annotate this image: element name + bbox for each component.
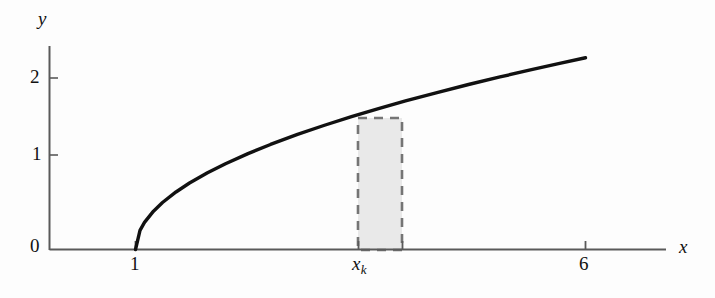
x-tick-label-6: 6 [579,253,589,275]
x-tick-label-xk-subscript: k [360,262,366,277]
y-tick-label-2: 2 [30,66,40,88]
x-tick-label-1: 1 [130,253,140,275]
x-axis-label: x [679,236,687,258]
y-tick-label-1: 1 [32,143,42,165]
figure-container: y x 0 1 2 1 xk 6 [0,0,715,298]
y-axis-label: y [38,8,46,30]
y-tick-label-0: 0 [30,235,40,257]
x-tick-label-xk: xk [352,253,366,278]
riemann-rectangle-fill [358,118,402,250]
